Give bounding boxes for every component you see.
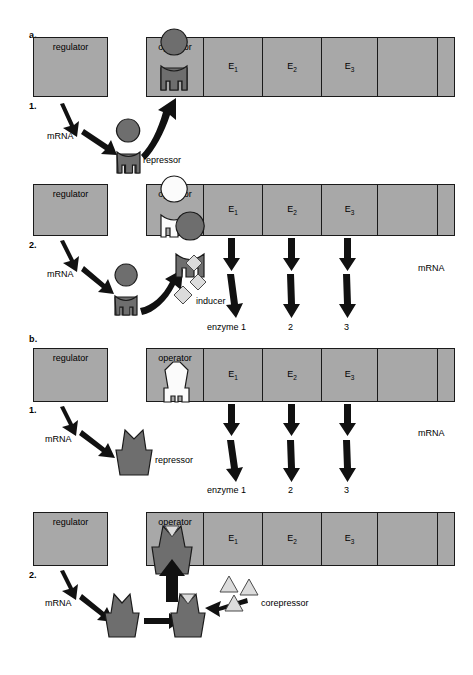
corepressor-free-2 [240,579,258,595]
arrow-mrna-to-repressor-a1 [81,129,117,155]
repressor-shape-bound-a1 [161,29,187,90]
panel-b2: 2. regulator operator E1 E2 E3 [0,490,473,675]
repressor-shape-inactive-b2 [105,594,139,637]
mrna-label-right-a2: mRNA [418,263,445,273]
mrna-label-b2: mRNA [45,598,72,608]
repressor-shape-free-a2 [115,264,137,315]
mrna-label-right-b1: mRNA [418,428,445,438]
panel-a2-graphics [0,170,473,330]
repressor-label-b1: repressor [155,455,193,465]
arrow-regulator-to-mrna-b1 [60,406,78,436]
transcription-arrows-a2 [223,238,356,271]
operator-notch-empty-b1 [164,362,189,402]
arrow-regulator-to-mrna-a2 [60,240,79,272]
translation-arrows-a2 [226,274,356,318]
transcription-arrows-b1 [223,404,356,436]
repressor-inducer-complex-a2 [176,212,204,277]
arrow-repressor-to-operator-a1 [141,98,176,160]
repressor-shape-free-a1 [117,119,140,173]
panel-a2: 2. regulator operator E1 E2 E3 [0,170,473,330]
arrow-mrna-to-repressor-a2 [81,266,114,294]
translation-arrows-b1 [226,440,356,482]
corepressor-label-b2: corepressor [261,598,309,608]
inducer-label-a2: inducer [196,296,226,306]
panel-b1-graphics [0,330,473,490]
mrna-label-a2: mRNA [47,269,74,279]
panel-b2-graphics [0,490,473,675]
corepressor-free-1 [220,576,238,592]
panel-b1: b. 1. regulator operator E1 E2 E3 [0,330,473,490]
mrna-label-a1: mRNA [47,131,74,141]
arrow-mrna-to-repressor-b1 [79,430,115,458]
inducer-free-2 [174,286,192,304]
panel-a1: a. 1. regulator operator E1 E2 E3 [0,0,473,170]
arrow-regulator-to-mrna-b2 [60,570,78,600]
panel-a1-graphics [0,0,473,170]
repressor-shape-inactive-b1 [116,430,152,475]
repressor-label-a1: repressor [143,155,181,165]
mrna-label-b1: mRNA [45,434,72,444]
